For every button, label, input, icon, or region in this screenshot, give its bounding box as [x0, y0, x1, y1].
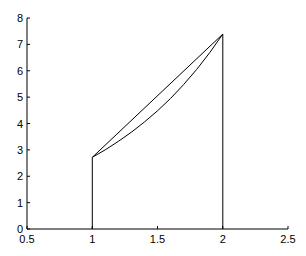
- x-tick-label: 0.5: [19, 233, 34, 245]
- x-tick-label: 1.5: [150, 233, 165, 245]
- series-line: [92, 34, 223, 157]
- x-tick-label: 2: [220, 233, 226, 245]
- chart: 0123456780.511.522.5: [0, 0, 306, 256]
- y-tick-label: 6: [17, 65, 23, 77]
- x-tick-label: 2.5: [280, 233, 295, 245]
- x-tick-label: 1: [89, 233, 95, 245]
- y-tick-label: 4: [17, 118, 23, 130]
- y-tick-label: 5: [17, 91, 23, 103]
- y-tick-label: 7: [17, 38, 23, 50]
- y-tick-label: 8: [17, 12, 23, 24]
- plot-area: [92, 34, 223, 229]
- y-tick-label: 2: [17, 170, 23, 182]
- y-tick-label: 1: [17, 197, 23, 209]
- axes: 0123456780.511.522.5: [17, 12, 296, 245]
- y-tick-label: 3: [17, 144, 23, 156]
